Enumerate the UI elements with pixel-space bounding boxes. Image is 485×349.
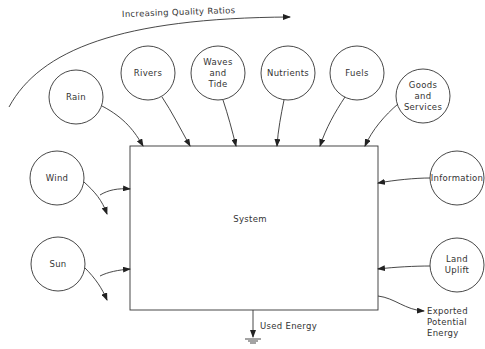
source-wind: Wind: [46, 173, 69, 184]
quality-arrow: [9, 17, 290, 107]
energy-systems-diagram: Increasing Quality Ratios Rain Rivers Wa…: [0, 0, 485, 349]
source-rain: Rain: [66, 92, 86, 103]
source-goods-services: Goods and Services: [404, 80, 442, 113]
source-information: Information: [431, 173, 484, 184]
used-energy-label: Used Energy: [260, 321, 317, 332]
source-land-uplift: Land Uplift: [445, 254, 469, 276]
exported-energy-label: Exported Potential Energy: [427, 306, 468, 339]
source-waves-tide: Waves and Tide: [203, 57, 232, 90]
system-label: System: [233, 214, 267, 225]
source-rivers: Rivers: [134, 68, 162, 79]
source-sun: Sun: [49, 259, 66, 270]
source-nutrients: Nutrients: [267, 68, 309, 79]
source-fuels: Fuels: [345, 68, 368, 79]
diagram-graphics: [0, 0, 485, 349]
system-box: [130, 146, 378, 310]
